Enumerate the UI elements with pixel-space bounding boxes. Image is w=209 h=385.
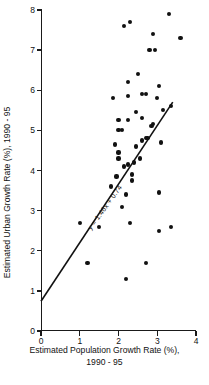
data-point — [130, 172, 134, 176]
data-point — [97, 225, 101, 229]
data-point — [109, 184, 113, 188]
data-point — [138, 156, 142, 160]
data-point — [130, 178, 134, 182]
data-point — [124, 192, 128, 196]
figure-scatter-plot: Estimated Urban Growth Rate (%), 1990 - … — [0, 0, 209, 385]
data-point — [169, 225, 173, 229]
data-point — [128, 221, 132, 225]
data-point — [116, 156, 120, 160]
data-point — [113, 142, 117, 146]
x-tick — [195, 331, 196, 336]
data-point — [134, 144, 138, 148]
y-axis-title: Estimated Urban Growth Rate (%), 1990 - … — [0, 0, 14, 385]
x-axis-title-line1: Estimated Population Growth Rate (%), — [0, 344, 209, 356]
x-tick — [79, 331, 80, 336]
data-point — [147, 48, 151, 52]
y-tick-label: 3 — [30, 206, 35, 215]
data-point — [140, 138, 144, 142]
data-point — [144, 261, 148, 265]
data-point — [126, 162, 130, 166]
regression-line — [41, 10, 196, 331]
y-tick-label: 4 — [30, 166, 35, 175]
data-point — [78, 221, 82, 225]
data-point — [114, 174, 118, 178]
data-point — [159, 140, 163, 144]
data-point — [157, 190, 161, 194]
data-point — [157, 229, 161, 233]
y-tick-label: 2 — [30, 247, 35, 256]
plot-area: 012345678 01234 y = 1.46x + 0.74 — [41, 10, 196, 331]
x-tick — [118, 331, 119, 336]
data-point — [167, 12, 171, 16]
data-point — [85, 261, 89, 265]
x-tick — [40, 331, 41, 336]
x-tick — [157, 331, 158, 336]
y-tick-label: 5 — [30, 126, 35, 135]
data-point — [178, 36, 182, 40]
data-point — [116, 150, 120, 154]
y-tick-label: 6 — [30, 86, 35, 95]
y-tick-label: 7 — [30, 46, 35, 55]
y-tick-label: 8 — [30, 6, 35, 15]
x-axis-title-line2: 1990 - 95 — [0, 356, 209, 368]
y-tick-label: 1 — [30, 287, 35, 296]
y-tick-label: 0 — [30, 327, 35, 336]
data-point — [132, 160, 136, 164]
x-axis-title: Estimated Population Growth Rate (%), 19… — [0, 344, 209, 369]
